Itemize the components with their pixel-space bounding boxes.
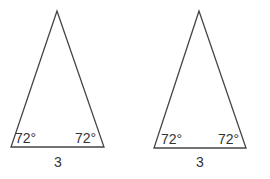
triangle-right-angle-left: 72°: [161, 131, 182, 147]
triangle-left-angle-right: 72°: [75, 130, 96, 146]
triangle-left-base-label: 3: [54, 154, 62, 170]
triangle-left-shape: [11, 11, 104, 147]
triangles-diagram: 72° 72° 3 72° 72° 3: [0, 0, 270, 179]
triangle-left: 72° 72° 3: [11, 11, 104, 170]
triangle-right: 72° 72° 3: [154, 11, 246, 170]
triangle-right-shape: [154, 11, 246, 148]
triangle-right-base-label: 3: [196, 154, 204, 170]
triangle-left-angle-left: 72°: [15, 130, 36, 146]
triangle-right-angle-right: 72°: [218, 131, 239, 147]
